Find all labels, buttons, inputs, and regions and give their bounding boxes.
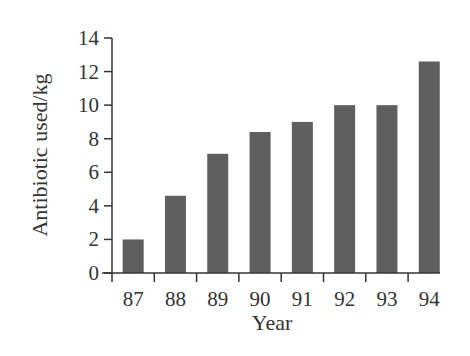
- bar-92: [334, 105, 355, 273]
- x-tick-label: 92: [334, 287, 355, 311]
- x-tick-label: 91: [292, 287, 313, 311]
- x-tick-label: 88: [165, 287, 186, 311]
- x-tick-label: 89: [207, 287, 228, 311]
- y-tick-label: 0: [89, 261, 100, 285]
- y-tick-label: 8: [89, 127, 100, 151]
- bar-91: [292, 122, 313, 273]
- bar-90: [250, 132, 271, 273]
- x-tick-label: 87: [123, 287, 144, 311]
- bar-chart: 02468101214 8788899091929394 Year Antibi…: [0, 0, 470, 356]
- x-axis-label: Year: [252, 310, 293, 335]
- y-axis-label: Antibiotic used/kg: [27, 73, 52, 236]
- bar-94: [419, 62, 440, 274]
- bar-89: [207, 154, 228, 273]
- bar-87: [123, 239, 144, 273]
- x-tick-label: 93: [376, 287, 397, 311]
- y-tick-label: 4: [89, 194, 100, 218]
- y-tick-label: 6: [89, 160, 100, 184]
- bar-88: [165, 196, 186, 273]
- x-tick-label: 90: [250, 287, 271, 311]
- x-axis-ticks: 8788899091929394: [112, 273, 440, 311]
- y-tick-label: 10: [78, 93, 99, 117]
- y-axis-ticks: 02468101214: [78, 26, 112, 285]
- y-tick-label: 14: [78, 26, 100, 50]
- y-tick-label: 12: [78, 60, 99, 84]
- plot-area: [123, 62, 440, 274]
- y-tick-label: 2: [89, 227, 100, 251]
- x-tick-label: 94: [419, 287, 441, 311]
- bar-93: [376, 105, 397, 273]
